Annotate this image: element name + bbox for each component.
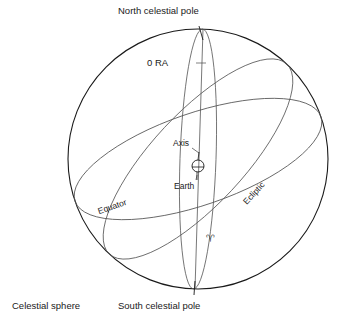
polar-axis-line: [195, 29, 203, 289]
earth-circle: [192, 160, 204, 172]
axis-label: Axis: [173, 138, 189, 149]
vernal-equinox-symbol: ♈: [206, 233, 215, 244]
earth-label: Earth: [174, 181, 194, 192]
celestial-sphere-figure: North celestial pole 0 RA Axis Earth Equ…: [0, 0, 345, 326]
celestial-sphere-diagram: [0, 0, 345, 326]
south-pole-tick: [194, 281, 195, 295]
axis-leader-line: [192, 148, 199, 153]
figure-caption: Celestial sphere: [12, 300, 80, 311]
north-celestial-pole-label: North celestial pole: [118, 5, 199, 16]
north-pole-tick: [199, 26, 203, 40]
south-celestial-pole-label: South celestial pole: [118, 300, 200, 311]
zero-ra-label: 0 RA: [147, 57, 168, 68]
